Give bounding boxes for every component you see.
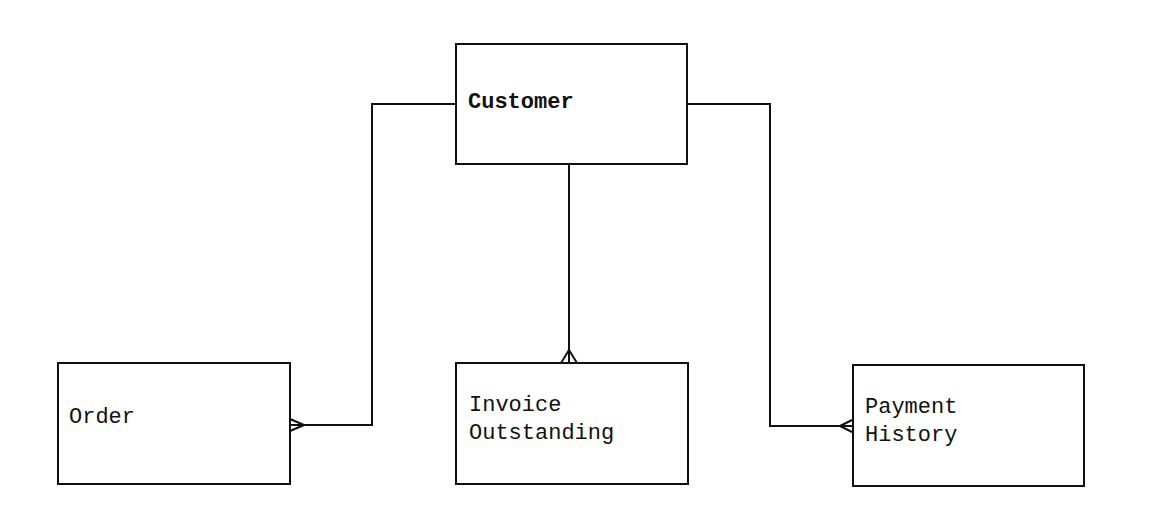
entity-payment-history[interactable]: Payment History bbox=[852, 364, 1085, 487]
entity-invoice-label-line2: Outstanding bbox=[469, 420, 614, 448]
entity-order[interactable]: Order bbox=[57, 362, 291, 485]
entity-order-label: Order bbox=[69, 404, 135, 432]
entity-invoice-outstanding[interactable]: Invoice Outstanding bbox=[455, 362, 689, 485]
entity-invoice-label-line1: Invoice bbox=[469, 392, 561, 420]
link-customer-payment bbox=[687, 104, 852, 426]
entity-customer[interactable]: Customer bbox=[455, 43, 688, 165]
crows-foot-order-icon bbox=[290, 419, 304, 431]
link-customer-order bbox=[290, 104, 456, 425]
entity-customer-label: Customer bbox=[468, 89, 574, 117]
entity-payment-label-line1: Payment bbox=[865, 394, 957, 422]
er-diagram: Customer Order Invoice Outstanding Payme… bbox=[0, 0, 1149, 524]
entity-payment-label-line2: History bbox=[865, 422, 957, 450]
